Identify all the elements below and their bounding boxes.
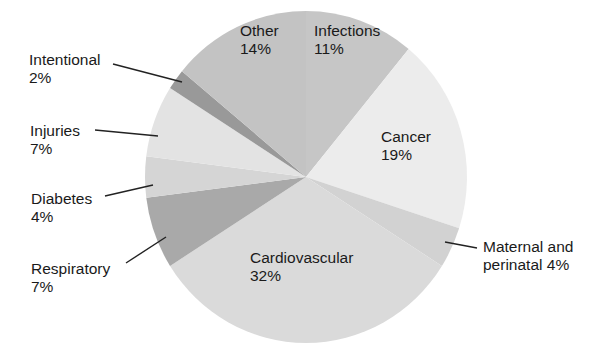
slice-label-injuries: Injuries 7% (30, 122, 80, 158)
leader-line-intentional (113, 64, 182, 82)
slice-label-other: Other 14% (240, 22, 279, 58)
pie-slices (145, 11, 467, 343)
slice-label-cardiovascular: Cardiovascular 32% (250, 249, 353, 285)
slice-label-diabetes: Diabetes 4% (31, 190, 92, 226)
slice-label-intentional: Intentional 2% (29, 51, 101, 87)
slice-label-infections: Infections 11% (314, 22, 380, 58)
slice-label-respiratory: Respiratory 7% (31, 260, 110, 296)
slice-label-cancer: Cancer 19% (381, 128, 431, 164)
leader-line-injuries (95, 130, 158, 136)
leader-line-respiratory (126, 237, 166, 263)
slice-label-maternal: Maternal and perinatal 4% (483, 238, 573, 274)
